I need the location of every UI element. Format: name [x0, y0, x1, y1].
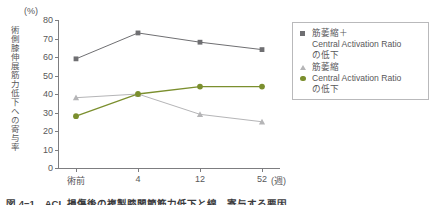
x-tick-mark: [76, 168, 77, 172]
y-tick-label: 10: [43, 145, 53, 155]
y-tick-label: 0: [48, 163, 53, 173]
x-tick-label: 術前: [67, 174, 85, 187]
circle-marker-icon: [300, 76, 306, 82]
legend-entry-1-line1: 筋萎縮: [312, 62, 339, 72]
x-tick-label: 4: [135, 174, 140, 184]
legend-entry-0-line3: の低下: [299, 50, 423, 61]
triangle-marker-icon: [300, 65, 306, 70]
series-0: [74, 31, 265, 62]
circle-marker-icon: [259, 84, 265, 90]
x-tick-label: 52: [257, 174, 267, 184]
legend-entry-0-line1: 筋萎縮＋: [312, 28, 348, 38]
y-tick-mark: [55, 168, 58, 169]
y-tick-label: 40: [43, 89, 53, 99]
y-axis-unit-label: (%): [24, 6, 38, 16]
chart-figure: (%) 術側膝伸展筋力低下への寄与率 80706050403020100 術前4…: [0, 0, 433, 205]
series-2: [73, 84, 265, 119]
y-tick-label: 30: [43, 108, 53, 118]
x-tick-label: 12: [195, 174, 205, 184]
circle-marker-icon: [135, 91, 141, 97]
series-line: [76, 94, 262, 122]
circle-marker-icon: [73, 113, 79, 119]
y-tick-label: 20: [43, 126, 53, 136]
legend-box: 筋萎縮＋ Central Activation Ratio の低下 筋萎縮 Ce…: [292, 22, 429, 100]
square-marker-icon: [260, 47, 265, 52]
series-line: [76, 33, 262, 59]
plot-area: 80706050403020100 術前41252(週): [58, 20, 280, 168]
legend-entry-2[interactable]: Central Activation Ratio: [299, 73, 423, 84]
y-tick-label: 50: [43, 71, 53, 81]
legend-entry-0[interactable]: 筋萎縮＋: [299, 28, 423, 39]
figure-caption: 図 4−1 ACL 損傷後の複製膝関節筋力低下と線 寄与する要因: [6, 196, 287, 205]
circle-marker-icon: [197, 84, 203, 90]
series-line: [76, 87, 262, 117]
y-tick-label: 70: [43, 34, 53, 44]
x-tick-mark: [138, 168, 139, 172]
x-tick-mark: [262, 168, 263, 172]
square-marker-icon: [136, 31, 141, 36]
legend-entry-1[interactable]: 筋萎縮: [299, 62, 423, 73]
legend-entry-2-line1: Central Activation Ratio: [312, 73, 401, 83]
y-axis-title: 術側膝伸展筋力低下への寄与率: [2, 26, 18, 152]
square-marker-icon: [198, 40, 203, 45]
legend-entry-2-line2: の低下: [299, 84, 423, 95]
x-axis-line: [58, 168, 280, 169]
square-marker-icon: [300, 31, 305, 36]
y-tick-label: 80: [43, 15, 53, 25]
x-tick-mark: [200, 168, 201, 172]
legend-entry-0-line2: Central Activation Ratio: [299, 39, 423, 50]
series-lines: [58, 20, 280, 168]
y-tick-label: 60: [43, 52, 53, 62]
square-marker-icon: [74, 56, 79, 61]
x-axis-unit-label: (週): [271, 174, 286, 187]
